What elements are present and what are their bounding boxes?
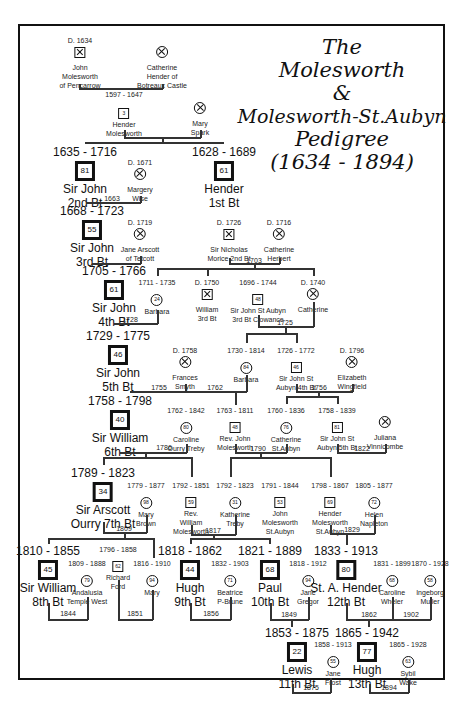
male-deceased-icon xyxy=(202,289,213,300)
female-deceased-icon xyxy=(156,46,168,58)
sibling-line xyxy=(190,538,270,540)
male-deceased-icon xyxy=(224,229,235,240)
connector-line xyxy=(230,597,232,620)
connector-line xyxy=(157,268,159,276)
person-john-molesworth-st-aubyn: 1791 - 1844 53 John Molesworth St.Aubyn xyxy=(261,481,298,536)
marriage-line xyxy=(118,619,153,621)
marriage-date: 1844 xyxy=(60,610,76,618)
baronet-icon: 81 xyxy=(75,161,95,181)
person-sir-john-3rd-bt: 1668 - 1723 55 Sir John 3rd Bt xyxy=(60,204,124,269)
sibling-line xyxy=(48,538,154,540)
chart-title: The Molesworth & Molesworth-St.Aubyn Ped… xyxy=(232,36,452,174)
connector-line xyxy=(374,515,376,534)
baronet-icon: 22 xyxy=(287,642,307,662)
marriage-date: 1790 xyxy=(250,445,266,453)
baronet-icon: 68 xyxy=(260,560,280,580)
male-icon: 69 xyxy=(325,497,336,508)
title-line: & xyxy=(232,82,452,105)
connector-line xyxy=(146,515,148,533)
baronet-icon: 40 xyxy=(110,410,130,430)
title-line: Molesworth xyxy=(232,59,452,82)
title-line: Molesworth-St.Aubyn xyxy=(232,105,452,128)
female-icon: 24 xyxy=(151,294,163,306)
marriage-date: 1728 xyxy=(122,316,138,324)
marriage-date: 1851 xyxy=(127,610,143,618)
female-icon: 63 xyxy=(402,656,414,668)
connector-line xyxy=(103,457,105,465)
male-icon: 48 xyxy=(229,422,240,433)
person-john-pencarrow: D. 1634 John Molesworth of Pencarrow xyxy=(59,36,100,90)
connector-line xyxy=(157,310,159,324)
baronet-icon: 34 xyxy=(93,482,113,502)
marriage-date: 1822 xyxy=(354,445,370,453)
connector-line xyxy=(408,678,410,693)
connector-line xyxy=(140,256,142,264)
connector-line xyxy=(190,603,192,620)
title-line: Pedigree xyxy=(232,128,452,151)
marriage-date: 1856 xyxy=(203,610,219,618)
female-icon: 58 xyxy=(424,575,436,587)
title-line: (1634 - 1894) xyxy=(232,151,452,174)
connector-line xyxy=(235,391,237,405)
female-deceased-icon xyxy=(379,416,391,428)
male-deceased-icon xyxy=(75,47,86,58)
baronet-icon: 44 xyxy=(180,560,200,580)
marriage-date: 1862 xyxy=(361,611,377,619)
female-deceased-icon xyxy=(273,228,285,240)
marriage-date: 1786 xyxy=(156,444,172,452)
female-icon: 84 xyxy=(240,362,252,374)
connector-line xyxy=(308,597,310,620)
female-icon: 79 xyxy=(81,575,93,587)
sibling-line xyxy=(103,457,192,459)
sibling-line xyxy=(230,457,331,459)
connector-line xyxy=(430,597,432,620)
male-icon: 62 xyxy=(113,561,124,572)
marriage-line xyxy=(292,692,331,694)
female-icon: 76 xyxy=(280,422,292,434)
connector-line xyxy=(235,515,237,535)
marriage-line xyxy=(120,452,187,454)
male-icon: 48 xyxy=(253,294,264,305)
connector-line xyxy=(296,333,298,343)
male-icon: 81 xyxy=(332,422,343,433)
female-icon: 31 xyxy=(229,497,241,509)
marriage-date: 1597 - 1647 xyxy=(105,91,142,99)
marriage-line xyxy=(369,692,409,694)
connector-line xyxy=(330,678,332,693)
marriage-line xyxy=(346,619,431,621)
female-deceased-icon xyxy=(194,102,206,114)
sibling-line xyxy=(286,396,338,398)
marriage-date: 1894 xyxy=(381,684,397,692)
marriage-date: 1849 xyxy=(281,611,297,619)
person-sir-nicholas-morice: D. 1726 Sir Nicholas Morice 2nd Bt xyxy=(207,218,250,263)
connector-line xyxy=(140,196,142,203)
connector-line xyxy=(313,302,315,327)
marriage-line xyxy=(270,619,309,621)
marriage-date: 1875 xyxy=(303,684,319,692)
marriage-date: 1902 xyxy=(403,611,419,619)
connector-line xyxy=(79,84,81,89)
connector-line xyxy=(392,597,394,620)
connector-line xyxy=(330,457,332,477)
marriage-date: 1663 xyxy=(104,195,120,203)
connector-line xyxy=(246,375,248,392)
person-catherine-herbert: D. 1716 Catherine Herbert xyxy=(264,218,294,263)
marriage-line xyxy=(48,619,88,621)
connector-line xyxy=(313,268,315,276)
connector-line xyxy=(270,603,272,620)
male-icon: 53 xyxy=(275,497,286,508)
connector-line xyxy=(162,84,164,89)
marriage-date: 1755 xyxy=(151,384,167,392)
connector-line xyxy=(48,603,50,620)
female-deceased-icon xyxy=(307,288,319,300)
female-icon: 71 xyxy=(224,575,236,587)
person-william-3rd-bt: D. 1750 William 3rd Bt xyxy=(195,278,220,323)
baronet-icon: 45 xyxy=(38,560,58,580)
connector-line xyxy=(87,597,89,620)
connector-line xyxy=(153,538,155,558)
connector-line xyxy=(346,603,348,620)
title-line: The xyxy=(232,36,452,59)
person-sir-john-5th-bt: 1729 - 1775 46 Sir John 5th Bt xyxy=(86,329,150,394)
marriage-line xyxy=(190,619,231,621)
connector-line xyxy=(207,268,209,276)
